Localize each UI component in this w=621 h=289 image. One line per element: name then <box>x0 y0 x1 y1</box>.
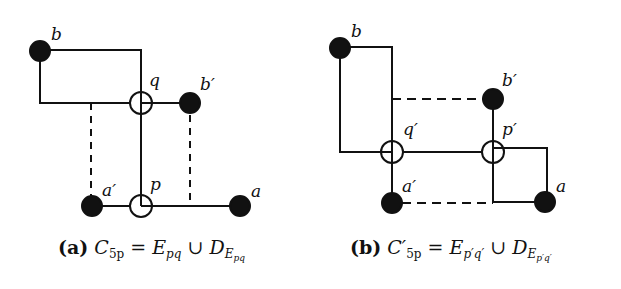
terminal-a-prime <box>82 196 102 216</box>
label-b-prime: b′ <box>502 70 517 90</box>
terminal-b <box>30 41 50 61</box>
label-b: b <box>351 21 362 41</box>
terminal-a <box>535 192 555 212</box>
label-a-prime: a′ <box>102 180 116 200</box>
terminal-a-prime <box>382 193 402 213</box>
panel-b-diagram <box>330 38 555 213</box>
edge-b-top <box>340 47 392 203</box>
terminal-b-prime <box>483 89 503 109</box>
caption-a: (a) C5p = Epq ∪ DEpq <box>58 236 245 263</box>
label-a: a <box>251 181 261 201</box>
label-b: b <box>51 24 62 44</box>
label-p-prime: p′ <box>502 119 517 139</box>
terminal-b-prime <box>180 93 200 113</box>
label-q-prime: q′ <box>403 119 418 139</box>
caption-a-tag: (a) <box>58 236 88 258</box>
label-a: a <box>556 176 566 196</box>
panel-a-diagram <box>30 41 250 217</box>
label-b-prime: b′ <box>200 74 215 94</box>
label-p: p <box>150 174 161 194</box>
caption-b-tag: (b) <box>350 236 381 258</box>
label-q: q <box>149 70 160 90</box>
terminal-a <box>230 196 250 216</box>
caption-b: (b) C′5p = Ep′q′ ∪ DEp′q′ <box>350 236 552 263</box>
edge-b-left <box>40 50 190 103</box>
label-a-prime: a′ <box>402 176 416 196</box>
terminal-b <box>330 38 350 58</box>
